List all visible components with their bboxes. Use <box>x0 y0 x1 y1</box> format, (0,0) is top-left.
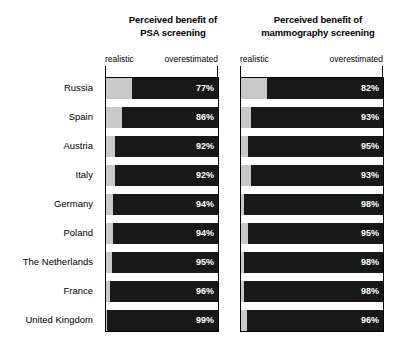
axis-tick-psa-left <box>105 66 106 77</box>
bar-value-label: 95% <box>361 136 379 157</box>
bar-value-label: 95% <box>361 223 379 244</box>
bar-value-label: 96% <box>361 310 379 331</box>
bar-segment-realistic <box>241 136 248 157</box>
bar-value-label: 98% <box>361 281 379 302</box>
bar-value-label: 96% <box>196 281 214 302</box>
bar-value-label: 98% <box>361 252 379 273</box>
panel-title-mammography: Perceived benefit of mammography screeni… <box>238 14 398 39</box>
bar-row: 77% <box>106 78 218 99</box>
axis-tick-mammography-right <box>382 66 383 77</box>
axis-tick-mammography-left <box>240 66 241 77</box>
bar-row: 82% <box>241 78 383 99</box>
axis-label-mammography-realistic: realistic <box>240 52 300 66</box>
category-axis: RussiaSpainAustriaItalyGermanyPolandThe … <box>0 77 99 338</box>
bar-row: 92% <box>106 165 218 186</box>
bar-value-label: 94% <box>196 223 214 244</box>
bar-row: 93% <box>241 107 383 128</box>
bar-row: 93% <box>241 165 383 186</box>
bar-segment-realistic <box>241 223 248 244</box>
bar-row: 96% <box>106 281 218 302</box>
axis-label-psa-overestimated: overestimated <box>148 52 218 66</box>
bar-row: 98% <box>241 281 383 302</box>
bar-value-label: 92% <box>196 136 214 157</box>
bar-segment-realistic <box>106 107 122 128</box>
bar-value-label: 99% <box>196 310 214 331</box>
bar-row: 98% <box>241 252 383 273</box>
bar-row: 98% <box>241 194 383 215</box>
bar-row: 86% <box>106 107 218 128</box>
chart-panel-mammography: 82%93%95%93%98%95%98%98%96% <box>240 77 384 332</box>
bar-row: 99% <box>106 310 218 331</box>
bar-row: 94% <box>106 194 218 215</box>
bar-row: 94% <box>106 223 218 244</box>
panel-title-psa-line1: Perceived benefit of <box>98 14 248 27</box>
bar-row: 95% <box>241 136 383 157</box>
axis-label-mammography-overestimated: overestimated <box>311 52 383 66</box>
chart-panel-psa: 77%86%92%92%94%94%95%96%99% <box>105 77 219 332</box>
axis-tick-psa-right <box>217 66 218 77</box>
bar-row: 92% <box>106 136 218 157</box>
category-label: Poland <box>0 222 99 243</box>
category-label: United Kingdom <box>0 309 99 330</box>
bar-value-label: 98% <box>361 194 379 215</box>
panel-title-psa: Perceived benefit of PSA screening <box>98 14 248 39</box>
bar-value-label: 94% <box>196 194 214 215</box>
bar-row: 96% <box>241 310 383 331</box>
chart-figure: Perceived benefit of PSA screening Perce… <box>0 0 405 360</box>
bar-segment-realistic <box>106 78 132 99</box>
bar-row: 95% <box>241 223 383 244</box>
bar-segment-realistic <box>106 165 115 186</box>
bar-segment-realistic <box>106 223 113 244</box>
panel-title-psa-line2: PSA screening <box>98 27 248 40</box>
category-label: Austria <box>0 135 99 156</box>
bar-value-label: 92% <box>196 165 214 186</box>
bar-segment-realistic <box>241 107 251 128</box>
bar-segment-realistic <box>241 78 267 99</box>
bar-value-label: 86% <box>196 107 214 128</box>
bar-segment-realistic <box>241 165 251 186</box>
category-label: Spain <box>0 106 99 127</box>
category-label: Italy <box>0 164 99 185</box>
category-label: France <box>0 280 99 301</box>
category-label: Russia <box>0 77 99 98</box>
bar-value-label: 93% <box>361 107 379 128</box>
category-label: Germany <box>0 193 99 214</box>
bar-value-label: 77% <box>196 78 214 99</box>
bar-segment-realistic <box>106 194 113 215</box>
bar-segment-realistic <box>106 136 115 157</box>
category-label: The Netherlands <box>0 251 99 272</box>
bar-row: 95% <box>106 252 218 273</box>
panel-title-mammography-line2: mammography screening <box>238 27 398 40</box>
bar-value-label: 82% <box>361 78 379 99</box>
panel-title-mammography-line1: Perceived benefit of <box>238 14 398 27</box>
bar-value-label: 93% <box>361 165 379 186</box>
bar-value-label: 95% <box>196 252 214 273</box>
